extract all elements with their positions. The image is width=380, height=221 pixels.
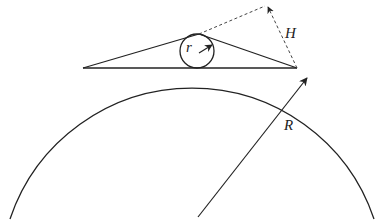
geometry-diagram: r H R: [0, 0, 380, 221]
label-r: r: [186, 39, 192, 55]
dashed-tangent-extension: [199, 6, 265, 34]
left-tangent-line: [83, 34, 199, 68]
large-radius-arrow: [198, 78, 307, 217]
large-circle-arc: [10, 88, 374, 219]
label-R: R: [283, 117, 293, 133]
label-H: H: [284, 25, 297, 41]
small-radius-arrow: [199, 45, 212, 53]
